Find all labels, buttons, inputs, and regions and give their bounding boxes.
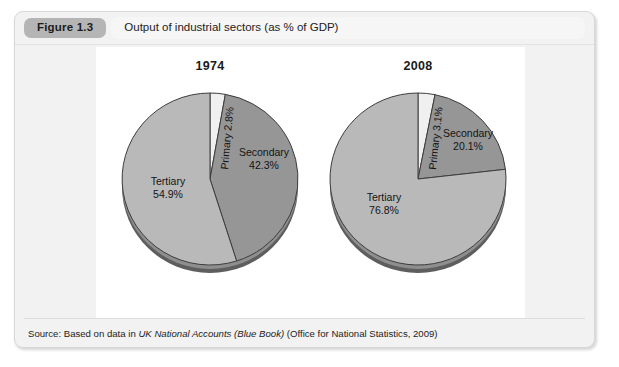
header-divider — [15, 44, 594, 45]
pie-stage-1974: Primary 2.8% Secondary 42.3% Tertiary 54… — [118, 79, 302, 275]
figure-caption-box: Output of industrial sectors (as % of GD… — [111, 17, 585, 39]
source-note: Source: Based on data in UK National Acc… — [28, 328, 438, 339]
pie-title-1974: 1974 — [110, 59, 310, 73]
pie-stage-2008: Primary 3.1% Secondary 20.1% Tertiary 76… — [326, 79, 510, 275]
figure-card: Figure 1.3 Output of industrial sectors … — [14, 11, 595, 348]
source-publication-title: UK National Accounts (Blue Book) — [138, 328, 284, 339]
pie-label-tertiary-value-2008: 76.8% — [369, 204, 399, 216]
chart-plot-panel: 1974 — [96, 47, 525, 319]
source-divider — [24, 318, 585, 319]
pie-label-tertiary-name-2008: Tertiary — [367, 191, 401, 203]
pie-label-secondary-name-1974: Secondary — [239, 146, 289, 158]
pie-chart-1974: 1974 — [110, 47, 310, 319]
pie-label-secondary-value-1974: 42.3% — [249, 159, 279, 171]
pie-label-tertiary-name-1974: Tertiary — [151, 175, 185, 187]
pie-title-2008: 2008 — [318, 59, 518, 73]
source-suffix: (Office for National Statistics, 2009) — [284, 328, 437, 339]
pie-chart-2008: 2008 Primary 3.1% — [318, 47, 518, 319]
figure-number-badge: Figure 1.3 — [24, 18, 106, 39]
pie-label-tertiary-1974: Tertiary 54.9% — [130, 175, 206, 201]
pie-label-secondary-value-2008: 20.1% — [453, 140, 483, 152]
pie-label-secondary-2008: Secondary 20.1% — [430, 127, 506, 153]
figure-header: Figure 1.3 Output of industrial sectors … — [15, 12, 594, 44]
pie-svg-2008 — [326, 79, 510, 275]
pie-label-secondary-1974: Secondary 42.3% — [226, 146, 302, 172]
pie-label-tertiary-2008: Tertiary 76.8% — [346, 191, 422, 217]
pie-label-tertiary-value-1974: 54.9% — [153, 188, 183, 200]
figure-caption: Output of industrial sectors (as % of GD… — [124, 22, 338, 34]
pie-label-secondary-name-2008: Secondary — [443, 127, 493, 139]
source-prefix: Source: Based on data in — [28, 328, 138, 339]
